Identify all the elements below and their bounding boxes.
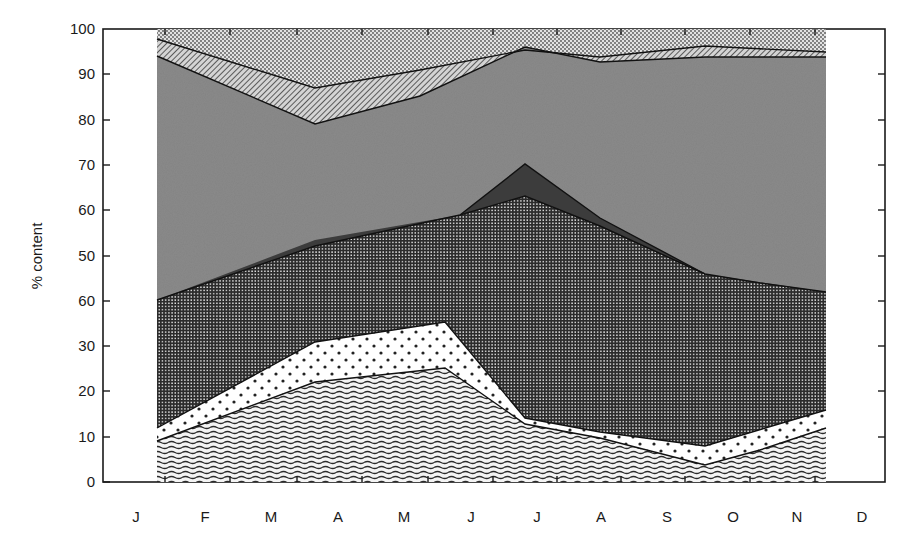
x-tick-aug: A xyxy=(596,508,606,525)
y-tick-70: 70 xyxy=(78,156,95,173)
x-tick-labels: J F M A M J J A S O N D xyxy=(132,508,867,525)
x-tick-feb: F xyxy=(200,508,209,525)
stacked-area-chart: 0 10 20 30 60 50 60 70 80 90 100 % conte… xyxy=(0,0,906,547)
y-tick-40: 60 xyxy=(78,292,95,309)
x-tick-mar: M xyxy=(265,508,278,525)
x-tick-jul: J xyxy=(533,508,541,525)
x-tick-jun: J xyxy=(467,508,475,525)
x-tick-apr: A xyxy=(333,508,343,525)
y-tick-0: 0 xyxy=(87,473,95,490)
y-tick-90: 90 xyxy=(78,65,95,82)
y-axis-title: % content xyxy=(28,222,45,290)
y-tick-100: 100 xyxy=(70,20,95,37)
y-tick-10: 10 xyxy=(78,428,95,445)
plot-area xyxy=(157,29,826,482)
y-tick-20: 20 xyxy=(78,382,95,399)
x-tick-jan: J xyxy=(132,508,140,525)
y-tick-labels: 0 10 20 30 60 50 60 70 80 90 100 xyxy=(70,20,95,490)
y-tick-30: 30 xyxy=(78,337,95,354)
y-tick-50: 50 xyxy=(78,247,95,264)
x-tick-may: M xyxy=(398,508,411,525)
x-tick-oct: O xyxy=(727,508,739,525)
y-tick-60: 60 xyxy=(78,201,95,218)
y-tick-80: 80 xyxy=(78,111,95,128)
x-tick-nov: N xyxy=(792,508,803,525)
x-tick-sep: S xyxy=(662,508,672,525)
x-tick-dec: D xyxy=(857,508,868,525)
